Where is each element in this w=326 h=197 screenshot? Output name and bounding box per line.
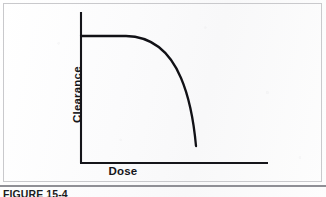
plot-area: Clearance Dose	[0, 0, 326, 182]
chart-svg	[0, 0, 326, 182]
y-axis-label: Clearance	[71, 66, 83, 123]
caption-divider	[0, 185, 326, 187]
figure-caption: FIGURE 15-4	[3, 188, 68, 197]
clearance-curve	[81, 36, 196, 146]
figure-screenshot: Clearance Dose FIGURE 15-4	[0, 0, 326, 197]
x-axis-label: Dose	[0, 165, 286, 177]
